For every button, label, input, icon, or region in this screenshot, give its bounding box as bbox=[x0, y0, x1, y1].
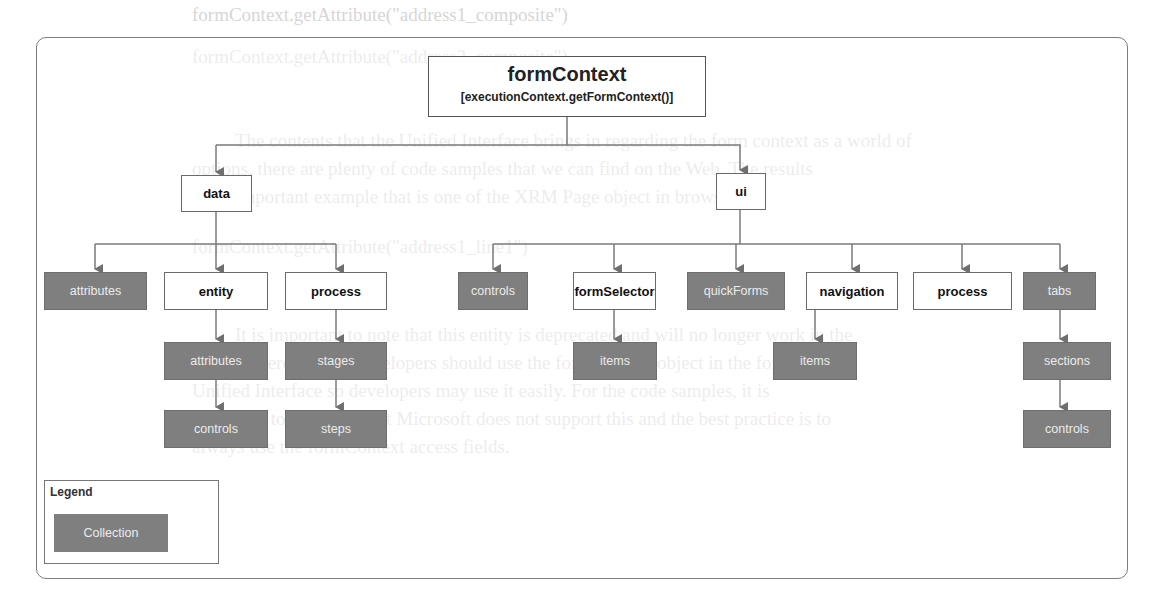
root-subtitle: [executionContext.getFormContext()] bbox=[429, 90, 705, 104]
node-formcontext: formContext [executionContext.getFormCon… bbox=[428, 56, 706, 117]
node-navigation-items: items bbox=[773, 342, 857, 380]
legend-title: Legend bbox=[50, 485, 93, 499]
node-tabs: tabs bbox=[1023, 272, 1096, 310]
node-ui: ui bbox=[716, 173, 766, 210]
node-data-process: process bbox=[285, 272, 387, 310]
node-entity-controls: controls bbox=[164, 410, 268, 448]
node-process-steps: steps bbox=[285, 410, 387, 448]
node-data: data bbox=[181, 175, 252, 212]
node-data-attributes: attributes bbox=[44, 272, 147, 310]
legend: Legend Collection bbox=[44, 480, 219, 564]
root-title: formContext bbox=[429, 63, 705, 86]
node-navigation: navigation bbox=[806, 272, 898, 310]
node-entity: entity bbox=[164, 272, 268, 310]
node-ui-process: process bbox=[913, 272, 1012, 310]
node-entity-attributes: attributes bbox=[164, 342, 268, 380]
node-tabs-sections: sections bbox=[1023, 342, 1111, 380]
node-formselector: formSelector bbox=[573, 272, 656, 310]
node-tabs-controls: controls bbox=[1023, 410, 1111, 448]
legend-collection-swatch: Collection bbox=[54, 514, 168, 552]
node-formselector-items: items bbox=[573, 342, 657, 380]
node-process-stages: stages bbox=[285, 342, 387, 380]
node-quickforms: quickForms bbox=[687, 272, 785, 310]
node-ui-controls: controls bbox=[458, 272, 528, 310]
